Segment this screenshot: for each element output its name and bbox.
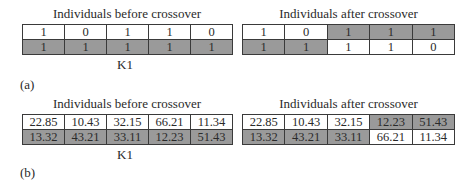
gene-cell: 43.21 — [285, 130, 327, 145]
panel-b-after-table: 22.8510.4332.1512.2351.4313.3243.2133.11… — [242, 114, 455, 145]
gene-cell: 13.32 — [243, 130, 285, 145]
panel-b-after-title: Individuals after crossover — [242, 96, 455, 112]
gene-cell: 1 — [191, 40, 233, 55]
gene-cell: 1 — [107, 40, 149, 55]
gene-cell: 33.11 — [327, 130, 369, 145]
gene-cell: 66.21 — [370, 130, 412, 145]
gene-cell: 12.23 — [370, 115, 412, 130]
gene-cell: 11.34 — [412, 130, 454, 145]
gene-cell: 1 — [23, 25, 65, 40]
gene-cell: 66.21 — [149, 115, 191, 130]
gene-cell: 10.43 — [65, 115, 107, 130]
gene-cell: 13.32 — [23, 130, 65, 145]
gene-cell: 1 — [370, 40, 412, 55]
panel-b-before-table: 22.8510.4332.1566.2111.3413.3243.2133.11… — [22, 114, 233, 145]
table-row: 11111 — [23, 40, 233, 55]
gene-cell: 10.43 — [285, 115, 327, 130]
table-row: 22.8510.4332.1566.2111.34 — [23, 115, 233, 130]
table-row: 10110 — [23, 25, 233, 40]
gene-cell: 1 — [149, 25, 191, 40]
panel-a-after-table: 1011111110 — [242, 24, 455, 55]
gene-cell: 0 — [285, 25, 327, 40]
gene-cell: 0 — [191, 25, 233, 40]
panel-a-before-table: 1011011111 — [22, 24, 233, 55]
panel-a-before-title: Individuals before crossover — [22, 6, 232, 22]
panel-b-crossover-point-k1: K1 — [117, 147, 133, 163]
gene-cell: 1 — [285, 40, 327, 55]
panel-a-label: (a) — [20, 77, 34, 93]
gene-cell: 43.21 — [65, 130, 107, 145]
panel-a-after-title: Individuals after crossover — [242, 6, 455, 22]
gene-cell: 1 — [370, 25, 412, 40]
gene-cell: 1 — [149, 40, 191, 55]
gene-cell: 1 — [327, 25, 369, 40]
gene-cell: 33.11 — [107, 130, 149, 145]
table-row: 10111 — [243, 25, 455, 40]
table-row: 11110 — [243, 40, 455, 55]
gene-cell: 12.23 — [149, 130, 191, 145]
table-row: 22.8510.4332.1512.2351.43 — [243, 115, 455, 130]
panel-b-label: (b) — [20, 165, 35, 181]
gene-cell: 1 — [412, 25, 454, 40]
k1-label: K1 — [117, 57, 133, 72]
gene-cell: 1 — [23, 40, 65, 55]
gene-cell: 32.15 — [327, 115, 369, 130]
gene-cell: 0 — [65, 25, 107, 40]
k1-label: K1 — [117, 147, 133, 162]
gene-cell: 1 — [243, 40, 285, 55]
gene-cell: 51.43 — [412, 115, 454, 130]
table-row: 13.3243.2133.1166.2111.34 — [243, 130, 455, 145]
gene-cell: 22.85 — [243, 115, 285, 130]
gene-cell: 0 — [412, 40, 454, 55]
gene-cell: 22.85 — [23, 115, 65, 130]
gene-cell: 32.15 — [107, 115, 149, 130]
gene-cell: 1 — [107, 25, 149, 40]
gene-cell: 11.34 — [191, 115, 233, 130]
panel-b-before-title: Individuals before crossover — [22, 96, 232, 112]
gene-cell: 1 — [327, 40, 369, 55]
gene-cell: 1 — [65, 40, 107, 55]
gene-cell: 1 — [243, 25, 285, 40]
gene-cell: 51.43 — [191, 130, 233, 145]
panel-a-crossover-point-k1: K1 — [117, 57, 133, 73]
table-row: 13.3243.2133.1112.2351.43 — [23, 130, 233, 145]
